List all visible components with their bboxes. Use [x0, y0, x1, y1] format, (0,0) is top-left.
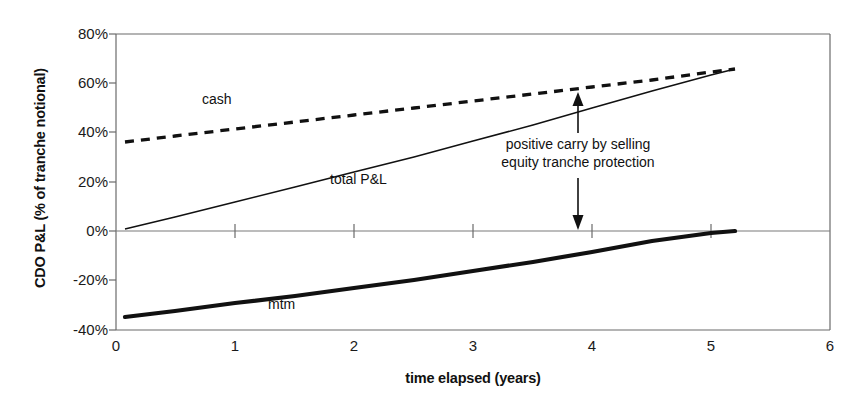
y-tick-marks: [109, 34, 116, 330]
series-label-cash: cash: [202, 92, 232, 107]
cdo-pl-chart: CDO P&L (% of tranche notional) 80% 60% …: [0, 0, 842, 409]
annotation-line-2: equity tranche protection: [463, 154, 693, 171]
plot-frame: [116, 34, 830, 330]
series-mtm: [125, 231, 735, 317]
series-label-total-pl: total P&L: [330, 172, 387, 187]
plot-area: [0, 0, 842, 409]
annotation-line-1: positive carry by selling: [463, 136, 693, 153]
annotation-arrow-down: [573, 178, 584, 230]
series-label-mtm: mtm: [268, 297, 295, 312]
